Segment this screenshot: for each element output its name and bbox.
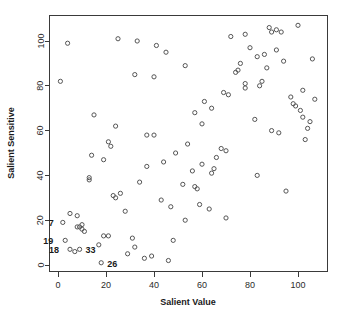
scatter-plot-figure: 020406080100 020406080100 719183326 Sali… bbox=[0, 0, 343, 318]
figure-background bbox=[0, 0, 343, 318]
y-tick-label: 60 bbox=[36, 126, 46, 136]
x-tick-label: 0 bbox=[55, 280, 60, 290]
y-tick-label: 40 bbox=[36, 170, 46, 180]
y-axis-title: Salient Sensitive bbox=[6, 107, 16, 179]
y-tick-label: 80 bbox=[36, 81, 46, 91]
x-tick-label: 60 bbox=[197, 280, 207, 290]
plot-canvas: 020406080100 020406080100 719183326 Sali… bbox=[0, 0, 343, 318]
data-point-label: 33 bbox=[86, 245, 96, 255]
x-tick-label: 20 bbox=[101, 280, 111, 290]
data-point-label: 18 bbox=[49, 245, 59, 255]
data-point-label: 26 bbox=[107, 259, 117, 269]
x-tick-label: 40 bbox=[149, 280, 159, 290]
data-point-label: 7 bbox=[49, 218, 54, 228]
x-tick-label: 100 bbox=[290, 280, 305, 290]
y-tick-label: 100 bbox=[36, 33, 46, 48]
x-tick-label: 80 bbox=[245, 280, 255, 290]
y-tick-label: 0 bbox=[36, 262, 46, 267]
x-axis-title: Salient Value bbox=[160, 297, 216, 307]
y-tick-label: 20 bbox=[36, 215, 46, 225]
